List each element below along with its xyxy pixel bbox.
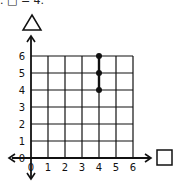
y-tick-label: 2 bbox=[19, 119, 25, 130]
x-tick-label: 3 bbox=[79, 162, 85, 173]
data-point bbox=[96, 70, 102, 76]
y-tick-label: 3 bbox=[19, 102, 25, 113]
y-tick-label: 1 bbox=[19, 136, 25, 147]
triangle-y-axis-label-icon bbox=[23, 15, 41, 30]
data-point bbox=[96, 87, 102, 93]
coordinate-plane-figure: . □ = 4. 01234560123456 bbox=[0, 0, 179, 188]
x-tick-label: 1 bbox=[45, 162, 51, 173]
x-tick-label: 4 bbox=[96, 162, 102, 173]
y-tick-label: 5 bbox=[19, 68, 25, 79]
coordinate-grid: 01234560123456 bbox=[0, 0, 179, 188]
header-text: . □ = 4. bbox=[0, 0, 44, 7]
data-point bbox=[96, 53, 102, 59]
square-x-axis-label-icon bbox=[157, 150, 172, 165]
y-tick-label: 4 bbox=[19, 85, 25, 96]
x-tick-label: 0 bbox=[28, 162, 34, 173]
y-tick-label: 0 bbox=[19, 153, 25, 164]
x-tick-label: 5 bbox=[113, 162, 119, 173]
x-tick-label: 6 bbox=[130, 162, 136, 173]
x-tick-label: 2 bbox=[62, 162, 68, 173]
y-tick-label: 6 bbox=[19, 51, 25, 62]
